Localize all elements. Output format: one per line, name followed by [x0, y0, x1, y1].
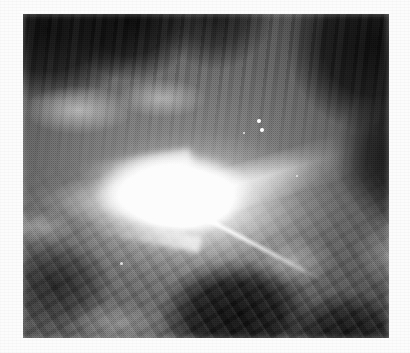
- photographic-plate: [23, 14, 389, 338]
- star-point-c: [243, 132, 245, 134]
- star-point-a: [257, 119, 261, 123]
- image-canvas: [0, 0, 410, 353]
- star-point-d: [120, 262, 123, 265]
- star-point-e: [296, 175, 298, 177]
- core-saturated-peak: [135, 179, 231, 229]
- star-point-b: [260, 128, 264, 132]
